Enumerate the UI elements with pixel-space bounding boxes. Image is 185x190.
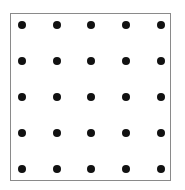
grid-dot-r1-c3 <box>87 21 95 29</box>
grid-dot-r1-c1 <box>18 21 26 29</box>
grid-dot-r2-c4 <box>122 57 130 65</box>
grid-dot-r2-c1 <box>18 57 26 65</box>
grid-dot-r5-c4 <box>122 165 130 173</box>
dot-grid <box>0 0 185 190</box>
grid-dot-r2-c5 <box>157 57 165 65</box>
grid-dot-r3-c5 <box>157 93 165 101</box>
grid-dot-r5-c2 <box>53 165 61 173</box>
grid-dot-r1-c4 <box>122 21 130 29</box>
grid-dot-r4-c2 <box>53 129 61 137</box>
grid-dot-r3-c2 <box>53 93 61 101</box>
grid-dot-r3-c4 <box>122 93 130 101</box>
grid-dot-r3-c1 <box>18 93 26 101</box>
grid-dot-r5-c5 <box>157 165 165 173</box>
grid-dot-r4-c3 <box>87 129 95 137</box>
grid-dot-r5-c3 <box>87 165 95 173</box>
grid-dot-r1-c5 <box>157 21 165 29</box>
grid-dot-r2-c3 <box>87 57 95 65</box>
grid-dot-r1-c2 <box>53 21 61 29</box>
grid-dot-r3-c3 <box>87 93 95 101</box>
grid-dot-r2-c2 <box>53 57 61 65</box>
grid-dot-r4-c4 <box>122 129 130 137</box>
grid-dot-r4-c1 <box>18 129 26 137</box>
grid-dot-r4-c5 <box>157 129 165 137</box>
grid-dot-r5-c1 <box>18 165 26 173</box>
